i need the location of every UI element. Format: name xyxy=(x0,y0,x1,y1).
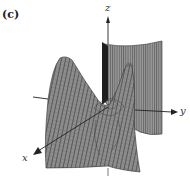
surface-main xyxy=(45,57,140,172)
surface-figure: (c) xyxy=(0,0,190,194)
x-axis-label: x xyxy=(22,152,28,163)
negative-y-axis xyxy=(33,97,48,99)
surface-fold xyxy=(102,42,108,105)
z-axis-label: z xyxy=(105,2,110,13)
surface-plot xyxy=(0,0,190,194)
y-axis-label: y xyxy=(180,105,186,116)
